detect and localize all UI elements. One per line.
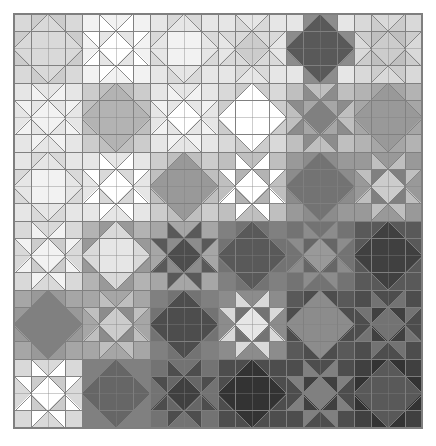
sis-corner-square	[405, 152, 422, 169]
star-corner-square	[65, 204, 82, 221]
star-corner-square	[14, 342, 31, 359]
star-corner-square	[65, 290, 82, 307]
sis-corner-square	[405, 290, 422, 307]
sis-corner-square	[337, 135, 354, 152]
star-corner-square	[201, 14, 218, 31]
star-corner-square	[218, 359, 235, 376]
sis-corner-square	[286, 411, 303, 428]
sis-corner-square	[14, 83, 31, 100]
sis-corner-square	[133, 14, 150, 31]
sis-corner-square	[65, 135, 82, 152]
star-corner-square	[286, 152, 303, 169]
sis-corner-square	[201, 411, 218, 428]
star-corner-square	[269, 221, 286, 238]
sis-corner-square	[337, 221, 354, 238]
sis-corner-square	[269, 342, 286, 359]
star-corner-square	[133, 83, 150, 100]
sis-corner-square	[14, 135, 31, 152]
sis-corner-square	[405, 14, 422, 31]
star-corner-square	[65, 342, 82, 359]
quilt-pattern-figure	[0, 0, 436, 446]
star-corner-square	[286, 66, 303, 83]
star-corner-square	[82, 411, 99, 428]
sis-corner-square	[269, 14, 286, 31]
star-corner-square	[405, 221, 422, 238]
star-corner-square	[82, 83, 99, 100]
sis-corner-square	[14, 273, 31, 290]
star-corner-square	[150, 66, 167, 83]
star-corner-square	[82, 273, 99, 290]
star-corner-square	[286, 290, 303, 307]
sis-corner-square	[65, 83, 82, 100]
star-corner-square	[218, 83, 235, 100]
sis-corner-square	[201, 221, 218, 238]
star-corner-square	[354, 273, 371, 290]
sis-corner-square	[133, 66, 150, 83]
sis-corner-square	[133, 290, 150, 307]
star-corner-square	[14, 204, 31, 221]
star-corner-square	[14, 290, 31, 307]
sis-corner-square	[286, 135, 303, 152]
star-corner-square	[133, 273, 150, 290]
sis-corner-square	[201, 359, 218, 376]
sis-corner-square	[150, 411, 167, 428]
sis-corner-square	[354, 152, 371, 169]
sis-corner-square	[405, 342, 422, 359]
star-corner-square	[150, 290, 167, 307]
star-corner-square	[354, 83, 371, 100]
sis-corner-square	[82, 152, 99, 169]
sis-corner-square	[150, 273, 167, 290]
star-corner-square	[218, 135, 235, 152]
star-corner-square	[269, 359, 286, 376]
sis-corner-square	[201, 83, 218, 100]
sis-corner-square	[82, 204, 99, 221]
star-corner-square	[14, 66, 31, 83]
sis-corner-square	[201, 273, 218, 290]
sis-corner-square	[337, 83, 354, 100]
sis-corner-square	[286, 273, 303, 290]
sis-corner-square	[286, 221, 303, 238]
star-corner-square	[354, 221, 371, 238]
sis-corner-square	[269, 152, 286, 169]
sis-corner-square	[269, 290, 286, 307]
star-corner-square	[218, 273, 235, 290]
star-corner-square	[14, 14, 31, 31]
star-corner-square	[133, 359, 150, 376]
sis-corner-square	[150, 359, 167, 376]
star-corner-square	[337, 204, 354, 221]
star-corner-square	[218, 221, 235, 238]
star-corner-square	[354, 411, 371, 428]
sis-corner-square	[65, 221, 82, 238]
sis-corner-square	[218, 66, 235, 83]
star-corner-square	[65, 152, 82, 169]
sis-corner-square	[201, 135, 218, 152]
quilt-pattern-canvas	[0, 0, 436, 446]
star-corner-square	[286, 14, 303, 31]
sis-corner-square	[354, 290, 371, 307]
star-corner-square	[133, 411, 150, 428]
sis-corner-square	[286, 83, 303, 100]
sis-corner-square	[405, 204, 422, 221]
sis-corner-square	[82, 14, 99, 31]
sis-corner-square	[269, 66, 286, 83]
star-corner-square	[337, 66, 354, 83]
star-corner-square	[201, 204, 218, 221]
star-corner-square	[150, 14, 167, 31]
star-corner-square	[405, 83, 422, 100]
star-corner-square	[201, 342, 218, 359]
star-corner-square	[133, 221, 150, 238]
sis-corner-square	[337, 359, 354, 376]
sis-corner-square	[150, 83, 167, 100]
star-corner-square	[150, 152, 167, 169]
star-corner-square	[286, 204, 303, 221]
star-corner-square	[337, 290, 354, 307]
star-corner-square	[405, 411, 422, 428]
sis-corner-square	[269, 204, 286, 221]
star-corner-square	[65, 14, 82, 31]
star-corner-square	[82, 359, 99, 376]
sis-corner-square	[354, 66, 371, 83]
star-corner-square	[14, 152, 31, 169]
sis-corner-square	[82, 66, 99, 83]
sis-corner-square	[218, 14, 235, 31]
star-corner-square	[150, 342, 167, 359]
